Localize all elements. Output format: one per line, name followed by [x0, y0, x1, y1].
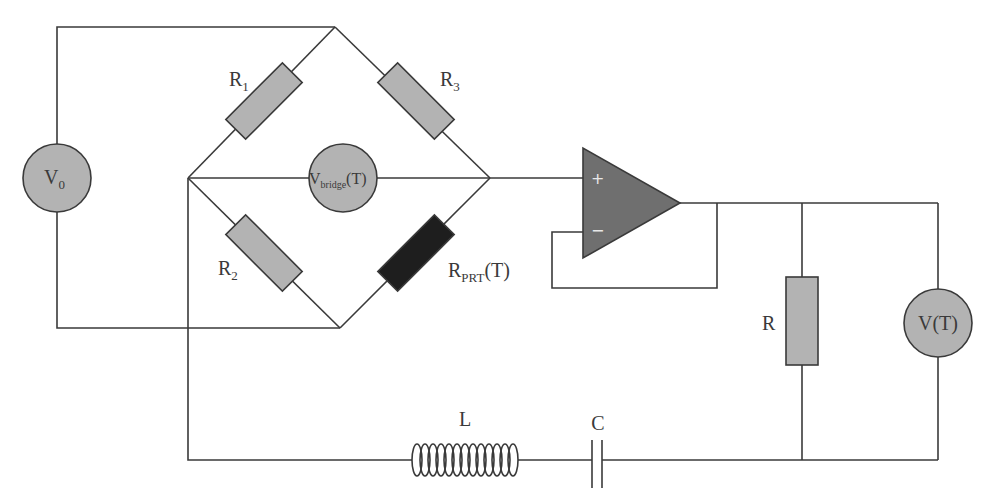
output-meter: V(T)	[904, 289, 972, 357]
op-amp-body	[583, 148, 680, 258]
circuit-diagram: V0 R1 R3 R2 RPRT(T) Vbridge(T) + − R V(T…	[0, 0, 988, 502]
op-amp-plus-sign: +	[591, 169, 604, 188]
op-amp-minus-sign: −	[591, 221, 604, 240]
r1-label: R1	[229, 68, 249, 94]
r-label: R	[762, 312, 776, 334]
inductor-label: L	[459, 408, 471, 430]
capacitor: C	[591, 412, 604, 488]
source-v0: V0	[23, 144, 91, 212]
op-amp: + −	[583, 148, 680, 258]
r-body	[786, 277, 818, 365]
r3-label: R3	[440, 68, 460, 94]
resistor-r: R	[762, 277, 818, 365]
capacitor-label: C	[591, 412, 604, 434]
bridge-meter: Vbridge(T)	[309, 144, 377, 212]
output-meter-label: V(T)	[918, 312, 958, 335]
wires	[57, 27, 938, 460]
wire-left-down	[188, 178, 412, 460]
resistor-prt	[378, 215, 454, 291]
inductor: L	[412, 408, 518, 476]
prt-label: RPRT(T)	[448, 259, 510, 285]
r2-label: R2	[218, 257, 238, 283]
prt-body	[378, 215, 454, 291]
